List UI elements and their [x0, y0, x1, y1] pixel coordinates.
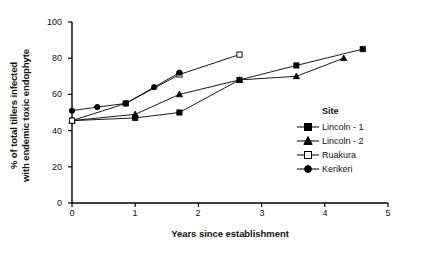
chart-figure: % of total tillers infected with endemic…	[0, 0, 431, 257]
data-point-lincoln-1[interactable]	[177, 110, 182, 115]
legend-item-kerikeri[interactable]: Kerikeri	[296, 162, 416, 176]
data-point-lincoln-2[interactable]	[341, 55, 347, 61]
legend-label-kerikeri: Kerikeri	[320, 164, 353, 174]
data-point-kerikeri[interactable]	[123, 101, 128, 106]
legend-item-ruakura[interactable]: Ruakura	[296, 148, 416, 162]
data-point-kerikeri[interactable]	[177, 70, 182, 75]
legend-label-lincoln-2: Lincoln - 2	[320, 136, 364, 146]
data-point-kerikeri[interactable]	[95, 104, 100, 109]
open-square-icon	[296, 148, 320, 162]
filled-square-icon	[296, 120, 320, 134]
data-point-kerikeri[interactable]	[69, 108, 74, 113]
data-point-lincoln-2[interactable]	[132, 111, 138, 117]
legend-title: Site	[296, 106, 416, 116]
data-point-ruakura[interactable]	[237, 52, 242, 57]
legend-item-lincoln-2[interactable]: Lincoln - 2	[296, 134, 416, 148]
data-point-lincoln-1[interactable]	[294, 63, 299, 68]
filled-triangle-icon	[296, 134, 320, 148]
legend-label-ruakura: Ruakura	[320, 150, 356, 160]
data-point-lincoln-1[interactable]	[360, 47, 365, 52]
filled-circle-icon	[296, 162, 320, 176]
legend-item-lincoln-1[interactable]: Lincoln - 1	[296, 120, 416, 134]
legend-label-lincoln-1: Lincoln - 1	[320, 122, 364, 132]
data-point-kerikeri[interactable]	[151, 84, 156, 89]
chart-legend: Site Lincoln - 1 Lincoln - 2	[296, 106, 416, 176]
data-point-ruakura[interactable]	[69, 118, 74, 123]
